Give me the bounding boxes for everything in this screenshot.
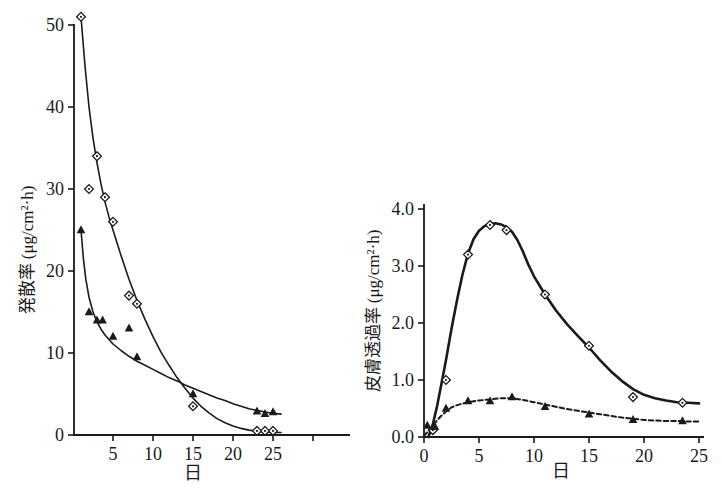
y-tick-label: 0.0	[392, 427, 415, 447]
evaporation-open-diamond-marker-dot	[264, 430, 266, 432]
y-tick-label: 50	[46, 15, 64, 35]
evaporation-open-diamond-marker-dot	[112, 221, 114, 223]
evaporation-filled-triangle-marker	[125, 324, 134, 332]
permeation-open-diamond-marker-dot	[505, 229, 507, 231]
evaporation-open-diamond-marker-dot	[80, 16, 82, 18]
axis-line	[74, 24, 350, 435]
permeation-filled-triangle-marker	[508, 392, 517, 400]
permeation-filled-triangle-marker	[464, 396, 473, 404]
evaporation-filled-triangle-curve	[81, 230, 281, 414]
permeation-open-diamond-marker-dot	[445, 379, 447, 381]
y-tick-label: 4.0	[392, 199, 415, 219]
evaporation-open-diamond-marker-dot	[272, 430, 274, 432]
x-tick-label: 20	[224, 444, 242, 464]
x-tick-label: 15	[580, 446, 598, 466]
x-tick-label: 25	[264, 444, 282, 464]
y-tick-label: 40	[46, 97, 64, 117]
y-tick-label: 10	[46, 343, 64, 363]
evaporation-open-diamond-marker-dot	[136, 303, 138, 305]
y-tick-label: 3.0	[392, 256, 415, 276]
evaporation-filled-triangle-marker	[133, 352, 142, 360]
left-y-axis-label: 発散率 (μg/cm²·h)	[13, 186, 38, 315]
x-tick-label: 10	[525, 446, 543, 466]
evaporation-filled-triangle-marker	[269, 407, 278, 415]
x-tick-label: 5	[475, 446, 484, 466]
permeation-open-diamond-marker-dot	[489, 224, 491, 226]
two-panel-chart-figure: 010203040505101520250.01.02.03.04.005101…	[0, 0, 722, 492]
evaporation-open-diamond-marker-dot	[96, 155, 98, 157]
permeation-filled-triangle-marker	[442, 404, 451, 412]
evaporation-open-diamond-marker-dot	[192, 405, 194, 407]
permeation-open-diamond-marker-dot	[588, 345, 590, 347]
x-tick-label: 0	[420, 446, 429, 466]
skin-permeation-plot: 0.01.02.03.04.00510152025	[392, 199, 709, 466]
x-tick-label: 10	[144, 444, 162, 464]
permeation-open-diamond-marker-dot	[467, 254, 469, 256]
left-x-axis-label: 日	[184, 458, 202, 484]
evaporation-open-diamond-marker-dot	[88, 188, 90, 190]
right-y-axis-label: 皮膚透過率 (μg/cm²·h)	[359, 230, 384, 393]
y-tick-label: 1.0	[392, 370, 415, 390]
x-tick-label: 25	[690, 446, 708, 466]
evaporation-open-diamond-marker-dot	[128, 295, 130, 297]
right-x-axis-label: 日	[552, 456, 570, 482]
y-tick-label: 0	[55, 425, 64, 445]
evaporation-open-diamond-marker-dot	[104, 196, 106, 198]
y-tick-label: 30	[46, 179, 64, 199]
permeation-open-diamond-marker-dot	[632, 396, 634, 398]
evaporation-rate-plot: 01020304050510152025	[46, 12, 350, 464]
y-tick-label: 20	[46, 261, 64, 281]
evaporation-filled-triangle-marker	[98, 315, 107, 323]
y-tick-label: 2.0	[392, 313, 415, 333]
evaporation-filled-triangle-marker	[109, 332, 118, 340]
x-tick-label: 5	[109, 444, 118, 464]
permeation-open-diamond-marker-dot	[544, 293, 546, 295]
evaporation-filled-triangle-marker	[77, 225, 86, 233]
permeation-open-diamond-marker-dot	[681, 402, 683, 404]
evaporation-open-diamond-marker-dot	[256, 430, 258, 432]
x-tick-label: 20	[635, 446, 653, 466]
